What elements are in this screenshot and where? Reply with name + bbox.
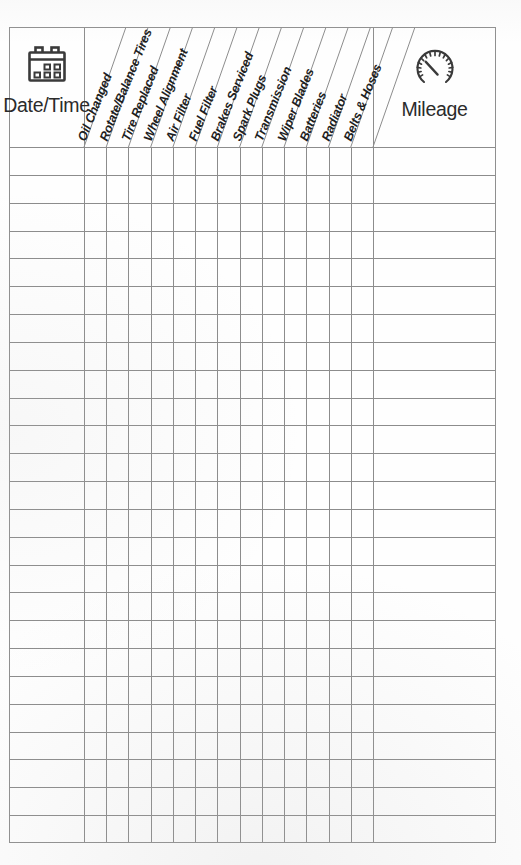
cell-service-check[interactable] [329, 314, 351, 342]
cell-service-check[interactable] [195, 314, 217, 342]
cell-service-check[interactable] [306, 342, 328, 370]
cell-service-check[interactable] [351, 231, 373, 259]
cell-service-check[interactable] [195, 509, 217, 537]
cell-service-check[interactable] [106, 147, 128, 175]
cell-service-check[interactable] [329, 231, 351, 259]
cell-service-check[interactable] [240, 787, 262, 815]
cell-service-check[interactable] [262, 481, 284, 509]
cell-service-check[interactable] [329, 398, 351, 426]
cell-date-time[interactable] [9, 286, 84, 314]
cell-date-time[interactable] [9, 620, 84, 648]
cell-service-check[interactable] [262, 620, 284, 648]
cell-service-check[interactable] [306, 537, 328, 565]
cell-service-check[interactable] [329, 759, 351, 787]
cell-service-check[interactable] [106, 203, 128, 231]
cell-service-check[interactable] [351, 732, 373, 760]
cell-service-check[interactable] [262, 258, 284, 286]
cell-service-check[interactable] [106, 175, 128, 203]
cell-service-check[interactable] [217, 342, 239, 370]
cell-service-check[interactable] [284, 509, 306, 537]
cell-service-check[interactable] [128, 258, 150, 286]
cell-service-check[interactable] [128, 147, 150, 175]
cell-service-check[interactable] [128, 175, 150, 203]
cell-service-check[interactable] [284, 565, 306, 593]
cell-service-check[interactable] [240, 453, 262, 481]
cell-service-check[interactable] [351, 398, 373, 426]
cell-service-check[interactable] [240, 314, 262, 342]
cell-service-check[interactable] [351, 175, 373, 203]
cell-service-check[interactable] [217, 592, 239, 620]
cell-service-check[interactable] [240, 676, 262, 704]
cell-service-check[interactable] [128, 565, 150, 593]
cell-date-time[interactable] [9, 314, 84, 342]
cell-service-check[interactable] [128, 370, 150, 398]
cell-service-check[interactable] [106, 815, 128, 843]
cell-service-check[interactable] [329, 481, 351, 509]
cell-service-check[interactable] [173, 565, 195, 593]
cell-service-check[interactable] [106, 258, 128, 286]
cell-service-check[interactable] [151, 481, 173, 509]
cell-service-check[interactable] [151, 203, 173, 231]
cell-service-check[interactable] [262, 592, 284, 620]
cell-service-check[interactable] [217, 258, 239, 286]
cell-service-check[interactable] [284, 815, 306, 843]
cell-service-check[interactable] [106, 676, 128, 704]
cell-service-check[interactable] [262, 314, 284, 342]
cell-service-check[interactable] [217, 286, 239, 314]
cell-service-check[interactable] [306, 676, 328, 704]
cell-service-check[interactable] [151, 759, 173, 787]
cell-service-check[interactable] [195, 398, 217, 426]
cell-service-check[interactable] [151, 620, 173, 648]
cell-service-check[interactable] [128, 286, 150, 314]
cell-service-check[interactable] [329, 258, 351, 286]
cell-service-check[interactable] [306, 314, 328, 342]
cell-service-check[interactable] [284, 425, 306, 453]
cell-service-check[interactable] [284, 787, 306, 815]
cell-service-check[interactable] [351, 258, 373, 286]
cell-service-check[interactable] [240, 565, 262, 593]
cell-service-check[interactable] [151, 231, 173, 259]
cell-date-time[interactable] [9, 537, 84, 565]
cell-service-check[interactable] [173, 258, 195, 286]
cell-service-check[interactable] [84, 676, 106, 704]
cell-date-time[interactable] [9, 759, 84, 787]
cell-service-check[interactable] [329, 175, 351, 203]
cell-service-check[interactable] [351, 425, 373, 453]
cell-service-check[interactable] [106, 537, 128, 565]
cell-service-check[interactable] [262, 425, 284, 453]
cell-service-check[interactable] [351, 147, 373, 175]
cell-mileage[interactable] [373, 286, 496, 314]
cell-service-check[interactable] [128, 759, 150, 787]
cell-service-check[interactable] [106, 231, 128, 259]
cell-service-check[interactable] [84, 203, 106, 231]
cell-date-time[interactable] [9, 258, 84, 286]
cell-service-check[interactable] [106, 509, 128, 537]
cell-mileage[interactable] [373, 398, 496, 426]
cell-service-check[interactable] [284, 592, 306, 620]
cell-service-check[interactable] [217, 425, 239, 453]
cell-service-check[interactable] [84, 759, 106, 787]
cell-service-check[interactable] [195, 342, 217, 370]
cell-service-check[interactable] [151, 648, 173, 676]
cell-mileage[interactable] [373, 509, 496, 537]
cell-service-check[interactable] [329, 370, 351, 398]
cell-service-check[interactable] [284, 676, 306, 704]
cell-service-check[interactable] [106, 787, 128, 815]
cell-service-check[interactable] [217, 175, 239, 203]
cell-service-check[interactable] [128, 453, 150, 481]
cell-service-check[interactable] [351, 342, 373, 370]
cell-service-check[interactable] [195, 787, 217, 815]
cell-service-check[interactable] [195, 147, 217, 175]
cell-service-check[interactable] [173, 620, 195, 648]
cell-service-check[interactable] [351, 592, 373, 620]
cell-service-check[interactable] [329, 676, 351, 704]
cell-service-check[interactable] [217, 203, 239, 231]
cell-service-check[interactable] [262, 676, 284, 704]
cell-service-check[interactable] [284, 286, 306, 314]
cell-service-check[interactable] [351, 620, 373, 648]
cell-service-check[interactable] [284, 175, 306, 203]
cell-service-check[interactable] [284, 620, 306, 648]
cell-service-check[interactable] [84, 537, 106, 565]
cell-service-check[interactable] [262, 203, 284, 231]
cell-service-check[interactable] [351, 537, 373, 565]
